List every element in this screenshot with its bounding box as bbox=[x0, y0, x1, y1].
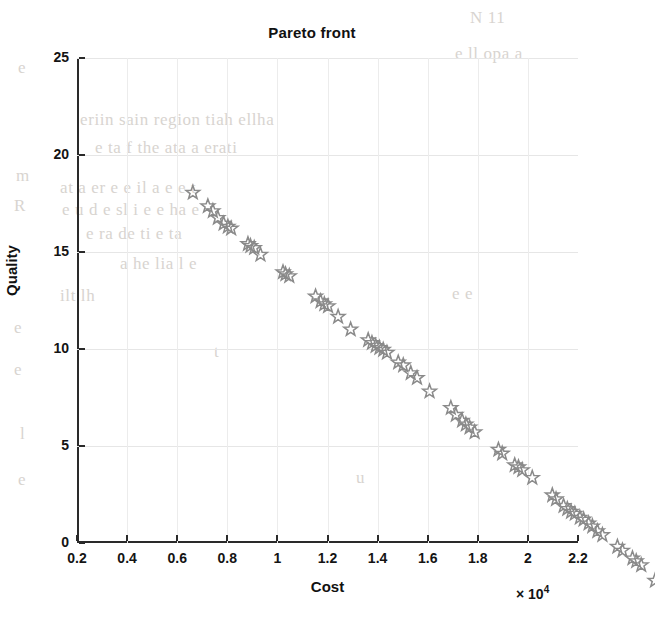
data-point-star bbox=[254, 248, 268, 261]
data-point-star bbox=[423, 384, 437, 397]
bleedthrough-text: e bbox=[14, 318, 22, 338]
y-tick-label: 10 bbox=[9, 340, 69, 356]
y-tick-mark bbox=[79, 445, 85, 447]
exponent-prefix: × 10 bbox=[516, 586, 544, 602]
scatter-markers bbox=[154, 116, 655, 601]
data-point-star bbox=[616, 543, 630, 556]
data-point-star bbox=[525, 471, 539, 484]
bleedthrough-text: e bbox=[18, 470, 26, 490]
data-point-star bbox=[331, 310, 345, 323]
y-tick-mark bbox=[79, 542, 85, 544]
y-tick-label: 20 bbox=[9, 146, 69, 162]
exponent-power: 4 bbox=[544, 584, 550, 595]
chart-title: Pareto front bbox=[0, 24, 624, 41]
gridline-vertical bbox=[127, 58, 128, 543]
y-tick-label: 25 bbox=[9, 49, 69, 65]
y-tick-label: 0 bbox=[9, 534, 69, 550]
y-tick-mark bbox=[79, 154, 85, 156]
y-tick-label: 5 bbox=[9, 437, 69, 453]
data-point-star bbox=[596, 528, 610, 541]
y-tick-mark bbox=[79, 251, 85, 253]
bleedthrough-text: m bbox=[16, 166, 30, 186]
x-axis-exponent: × 104 bbox=[516, 584, 549, 602]
y-tick-mark bbox=[79, 57, 85, 59]
y-axis-title: Quality bbox=[3, 245, 20, 296]
data-point-star bbox=[344, 322, 358, 335]
bleedthrough-text: R bbox=[14, 196, 26, 216]
x-axis-title: Cost bbox=[77, 578, 578, 595]
x-tick-label: 2.2 bbox=[548, 550, 608, 566]
y-axis-line bbox=[77, 58, 79, 543]
plot-area bbox=[77, 58, 578, 543]
data-point-star bbox=[634, 558, 648, 571]
y-tick-mark bbox=[79, 348, 85, 350]
bleedthrough-text: e bbox=[14, 360, 22, 380]
data-point-star bbox=[648, 573, 655, 586]
data-point-star bbox=[186, 185, 200, 198]
x-tick-mark bbox=[126, 535, 128, 541]
x-tick-mark bbox=[76, 535, 78, 541]
data-point-star bbox=[410, 371, 424, 384]
